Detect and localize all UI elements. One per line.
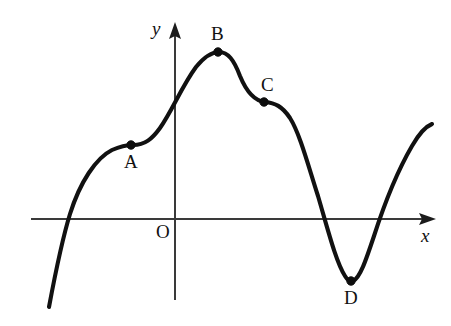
x-axis-label: x [421, 226, 429, 245]
point-marker-c [260, 98, 268, 106]
function-curve [49, 52, 432, 307]
graph-figure: A B C D x y O [0, 0, 451, 326]
point-label-b: B [211, 24, 224, 43]
origin-label: O [156, 222, 170, 241]
point-label-a: A [124, 152, 138, 171]
point-marker-d [347, 277, 355, 285]
y-axis-label: y [152, 19, 160, 38]
point-marker-a [127, 141, 135, 149]
point-label-d: D [344, 288, 358, 307]
point-label-c: C [261, 75, 274, 94]
graph-canvas [0, 0, 451, 326]
point-marker-b [214, 48, 222, 56]
